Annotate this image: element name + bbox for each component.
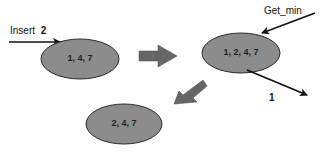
insert-op-label: Insert	[10, 25, 35, 36]
get-min-label: Get_min	[264, 5, 302, 16]
output-arrow	[247, 70, 307, 95]
node-label-after-getmin: 2, 4, 7	[86, 118, 162, 128]
node-label-initial: 1, 4, 7	[41, 53, 119, 63]
insert-value: 2	[41, 25, 47, 36]
block-arrow-right	[139, 45, 177, 67]
insert-label: Insert 2	[10, 25, 46, 36]
output-value: 1	[269, 92, 275, 103]
diagram-canvas	[0, 0, 322, 153]
get-min-arrow	[262, 13, 315, 33]
node-label-after-insert: 1, 2, 4, 7	[202, 47, 280, 57]
block-arrow-down-left	[174, 80, 207, 104]
